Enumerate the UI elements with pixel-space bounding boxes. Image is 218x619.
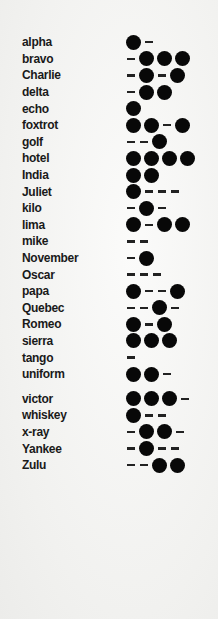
dash-icon [127, 91, 135, 93]
morse-row-victor: victor [22, 390, 212, 407]
dot-icon [144, 333, 159, 348]
dot-icon [139, 85, 154, 100]
dot-icon [126, 217, 141, 232]
dash-icon [145, 224, 153, 226]
dash-icon [163, 373, 171, 375]
morse-code [126, 284, 185, 299]
dash-icon [127, 58, 135, 60]
morse-code-sheet: alphabravoCharliedeltaechofoxtrotgolfhot… [0, 0, 218, 619]
dash-icon [140, 307, 148, 309]
morse-row-yankee: Yankee [22, 440, 212, 457]
phonetic-word: lima [22, 219, 126, 231]
morse-code [126, 85, 172, 100]
dash-icon [127, 207, 135, 209]
dash-icon [127, 464, 135, 466]
morse-row-hotel: hotel [22, 150, 212, 167]
morse-row-romeo: Romeo [22, 316, 212, 333]
morse-code [126, 201, 167, 216]
morse-row-uniform: uniform [22, 366, 212, 383]
phonetic-word: Quebec [22, 302, 126, 314]
phonetic-word: Charlie [22, 69, 126, 81]
dash-icon [158, 447, 166, 449]
dash-icon [171, 190, 179, 192]
morse-row-charlie: Charlie [22, 67, 212, 84]
phonetic-word: whiskey [22, 409, 126, 421]
phonetic-word: bravo [22, 53, 126, 65]
morse-code [126, 424, 185, 439]
dot-icon [126, 118, 141, 133]
dash-icon [145, 290, 153, 292]
morse-code [126, 118, 190, 133]
dot-icon [175, 51, 190, 66]
morse-row-november: November [22, 250, 212, 267]
dot-icon [144, 367, 159, 382]
dash-icon [145, 414, 153, 416]
morse-code [126, 458, 185, 473]
morse-row-oscar: Oscar [22, 266, 212, 283]
phonetic-word: sierra [22, 335, 126, 347]
morse-alphabet-list: alphabravoCharliedeltaechofoxtrotgolfhot… [22, 34, 212, 473]
dot-icon [139, 201, 154, 216]
dash-icon [140, 464, 148, 466]
morse-code [126, 168, 159, 183]
morse-row-foxtrot: foxtrot [22, 117, 212, 134]
phonetic-word: tango [22, 352, 126, 364]
dash-icon [153, 273, 161, 275]
dot-icon [126, 391, 141, 406]
dot-icon [175, 118, 190, 133]
dot-icon [126, 101, 141, 116]
morse-row-zulu: Zulu [22, 457, 212, 474]
dash-icon [127, 356, 135, 358]
dash-icon [145, 41, 153, 43]
dot-icon [126, 333, 141, 348]
dot-icon [144, 168, 159, 183]
dot-icon [157, 424, 172, 439]
morse-row-alpha: alpha [22, 34, 212, 51]
dash-icon [158, 190, 166, 192]
dot-icon [180, 151, 195, 166]
dash-icon [158, 74, 166, 76]
dash-icon [181, 398, 189, 400]
dot-icon [126, 35, 141, 50]
dot-icon [157, 51, 172, 66]
morse-row-india: India [22, 167, 212, 184]
dot-icon [144, 151, 159, 166]
dash-icon [127, 431, 135, 433]
dot-icon [170, 68, 185, 83]
morse-row-sierra: sierra [22, 333, 212, 350]
dot-icon [126, 184, 141, 199]
dash-icon [140, 240, 148, 242]
dot-icon [139, 68, 154, 83]
phonetic-word: India [22, 169, 126, 181]
dot-icon [152, 300, 167, 315]
morse-row-echo: echo [22, 100, 212, 117]
dot-icon [126, 408, 141, 423]
phonetic-word: Juliet [22, 186, 126, 198]
morse-code [126, 300, 180, 315]
dot-icon [152, 458, 167, 473]
phonetic-word: kilo [22, 202, 126, 214]
morse-code [126, 408, 167, 423]
morse-row-juliet: Juliet [22, 183, 212, 200]
dash-icon [158, 414, 166, 416]
dash-icon [127, 141, 135, 143]
phonetic-word: echo [22, 103, 126, 115]
morse-row-golf: golf [22, 134, 212, 151]
morse-row-papa: papa [22, 283, 212, 300]
dash-icon [140, 141, 148, 143]
dot-icon [175, 217, 190, 232]
dash-icon [127, 307, 135, 309]
morse-code [126, 441, 180, 456]
dot-icon [126, 367, 141, 382]
phonetic-word: papa [22, 285, 126, 297]
morse-code [126, 35, 154, 50]
morse-code [126, 184, 180, 199]
dot-icon [144, 118, 159, 133]
morse-code [126, 317, 172, 332]
dash-icon [127, 447, 135, 449]
morse-row-tango: tango [22, 349, 212, 366]
dot-icon [126, 151, 141, 166]
dot-icon [162, 151, 177, 166]
morse-code [126, 391, 190, 406]
morse-row-x-ray: x-ray [22, 424, 212, 441]
